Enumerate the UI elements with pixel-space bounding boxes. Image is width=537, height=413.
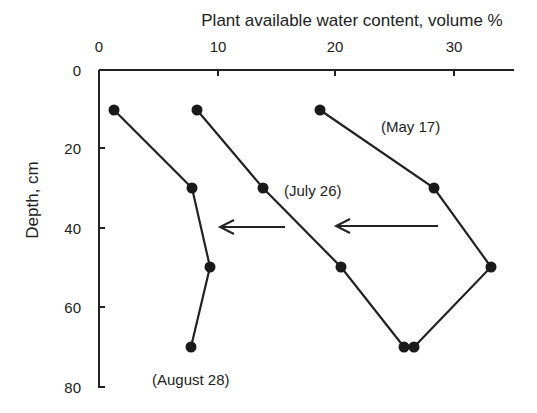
y-tick-label: 20 [64,140,81,157]
series-may-17-line [320,110,491,347]
y-tick-label: 80 [64,379,81,396]
y-tick-label: 60 [64,299,81,316]
series-label-july-26: (July 26) [284,182,342,199]
axes [99,70,514,388]
x-axis-label: Plant available water content, volume % [201,11,502,30]
series-label-august-28: (August 28) [152,371,230,388]
x-tick-label: 30 [446,38,463,55]
series-label-may-17: (May 17) [381,118,440,135]
y-tick-label: 40 [64,220,81,237]
shift-arrows [220,219,438,234]
y-axis-label: Depth, cm [23,161,42,238]
x-tick-label: 0 [95,38,103,55]
series-august-28-line [114,110,210,347]
y-tick-label: 0 [73,62,81,79]
x-tick-label: 20 [327,38,344,55]
x-tick-label: 10 [210,38,227,55]
chart-canvas: Plant available water content, volume % … [0,0,537,413]
